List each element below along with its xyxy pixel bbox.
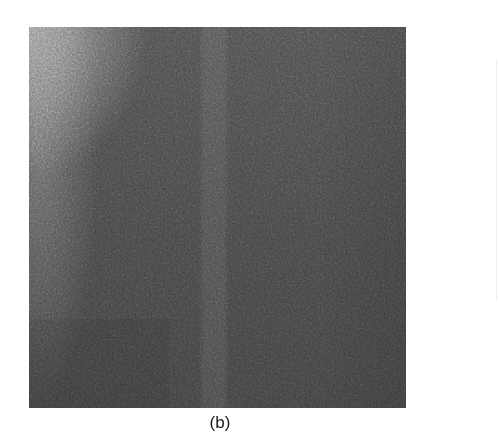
noise-texture (29, 27, 406, 408)
adjacent-panel-edge (496, 60, 497, 300)
texture-image (29, 27, 406, 408)
panel-caption: (b) (200, 413, 240, 433)
